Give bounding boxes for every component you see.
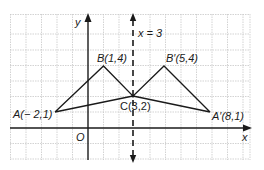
y-axis-label: y bbox=[74, 16, 82, 28]
y-axis bbox=[85, 13, 92, 160]
reflection-line-label: x = 3 bbox=[137, 27, 163, 39]
reflection-line-x3 bbox=[130, 13, 136, 163]
grid bbox=[10, 14, 250, 160]
point-c-label: C(3,2) bbox=[120, 100, 151, 112]
point-a-prime-label: A′(8,1) bbox=[211, 110, 244, 122]
origin-label: O bbox=[76, 131, 85, 143]
coordinate-diagram: y x O x = 3 A(− 2,1) B(1,4) C(3,2) B′(5,… bbox=[0, 0, 264, 170]
point-b-prime-label: B′(5,4) bbox=[166, 52, 198, 64]
point-a-label: A(− 2,1) bbox=[12, 108, 53, 120]
point-b-label: B(1,4) bbox=[97, 52, 127, 64]
x-axis-label: x bbox=[241, 131, 248, 143]
point-c-dot bbox=[131, 94, 134, 97]
x-axis bbox=[10, 125, 252, 132]
